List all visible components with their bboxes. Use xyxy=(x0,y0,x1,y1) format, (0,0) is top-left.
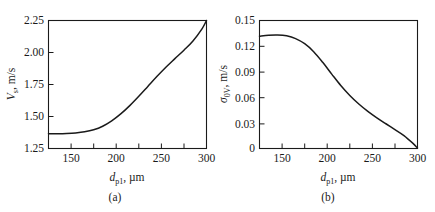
x-tick-label-a-2: 250 xyxy=(153,152,171,164)
x-tick-label-b-3: 300 xyxy=(409,152,427,164)
x-tick-label-a-3: 300 xyxy=(198,152,216,164)
y-tick-label-a-1: 1.50 xyxy=(24,110,44,122)
figure-container: 1.25 1.50 1.75 2.00 2.25 150 200 250 300… xyxy=(0,0,435,212)
x-axis-title-b: dp1, µm xyxy=(320,171,355,186)
y-axis-ticks-a xyxy=(49,21,54,149)
y-axis-title-b-tail: , m/s xyxy=(218,65,230,88)
y-axis-title-b-sub: 0V xyxy=(223,87,232,97)
x-tick-label-b-0: 150 xyxy=(273,152,291,164)
y-tick-label-b-5: 0.15 xyxy=(235,14,255,26)
x-tick-label-a-0: 150 xyxy=(62,152,80,164)
panel-caption-a: (a) xyxy=(109,191,122,204)
chart-panel-b: 0 0.03 0.06 0.09 0.12 0.15 150 200 250 3… xyxy=(218,0,435,212)
svg-text:Vs, m/s: Vs, m/s xyxy=(5,67,20,100)
x-axis-title-a-sub: p1 xyxy=(115,177,123,186)
y-tick-label-a-3: 2.00 xyxy=(24,46,44,58)
svg-text:σ0V, m/s: σ0V, m/s xyxy=(218,65,232,103)
y-axis-title-a: Vs, m/s xyxy=(5,67,20,100)
x-axis-ticks-a xyxy=(71,144,206,149)
x-axis-title-a: dp1, µm xyxy=(109,171,144,186)
y-tick-label-a-4: 2.25 xyxy=(24,14,44,26)
x-axis-title-b-tail: , µm xyxy=(334,171,355,184)
y-tick-label-a-0: 1.25 xyxy=(24,142,44,154)
y-axis-title-b: σ0V, m/s xyxy=(218,65,232,103)
data-curve-a xyxy=(49,21,207,134)
panel-caption-b: (b) xyxy=(321,191,335,204)
y-tick-label-b-1: 0.03 xyxy=(235,118,255,130)
y-axis-title-a-tail: , m/s xyxy=(5,67,18,90)
plot-frame-a xyxy=(49,21,207,149)
x-tick-label-b-1: 200 xyxy=(319,152,337,164)
x-axis-title-a-tail: , µm xyxy=(123,171,144,184)
y-tick-label-a-2: 1.75 xyxy=(24,78,44,90)
y-tick-label-b-2: 0.06 xyxy=(235,92,255,104)
y-axis-ticks-b xyxy=(260,21,265,149)
y-tick-label-b-4: 0.12 xyxy=(235,40,255,52)
chart-panel-a: 1.25 1.50 1.75 2.00 2.25 150 200 250 300… xyxy=(0,0,217,212)
y-tick-label-b-0: 0 xyxy=(249,142,255,154)
x-tick-label-b-2: 250 xyxy=(364,152,382,164)
y-tick-label-b-3: 0.09 xyxy=(235,66,255,78)
x-tick-label-a-1: 200 xyxy=(108,152,126,164)
x-axis-ticks-b xyxy=(282,144,417,149)
x-axis-title-b-sub: p1 xyxy=(326,177,334,186)
data-curve-b xyxy=(260,35,418,148)
